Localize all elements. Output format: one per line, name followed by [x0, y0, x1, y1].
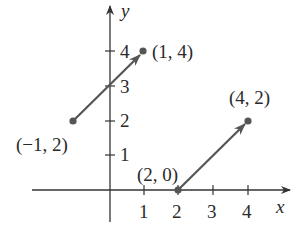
x-tick-label: 3	[207, 201, 217, 222]
vector-2	[178, 124, 245, 190]
point-label-tail-1: (−1, 2)	[16, 134, 68, 156]
y-tick-label: 1	[120, 144, 130, 165]
y-tick-label: 2	[120, 110, 130, 131]
x-tick-label: 2	[172, 201, 182, 222]
vector-2-head-point	[244, 117, 251, 124]
vector-1-tail-point	[69, 117, 76, 124]
y-axis-label: y	[119, 0, 130, 21]
x-axis-label: x	[275, 196, 285, 217]
point-label-tail-2: (2, 0)	[137, 164, 178, 186]
point-label-head-1: (1, 4)	[152, 41, 193, 63]
coordinate-plane: 1 2 3 4 1 2 3 4 x y (−1, 2) (1, 4) (2, 0…	[0, 0, 298, 225]
x-tick-label: 4	[242, 201, 252, 222]
vector-1	[73, 55, 140, 121]
vector-2-tail-point	[174, 186, 181, 193]
vector-1-head-point	[139, 47, 146, 54]
y-tick-label: 4	[120, 41, 130, 62]
y-tick-label: 3	[120, 76, 130, 97]
x-tick-label: 1	[139, 201, 149, 222]
point-label-head-2: (4, 2)	[229, 87, 270, 109]
